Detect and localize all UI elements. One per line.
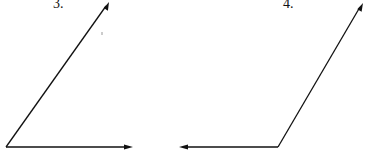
arrowhead-up-right-icon (104, 2, 109, 11)
figure-4-diagonal-ray (278, 7, 360, 147)
figure-3-angle (6, 2, 133, 150)
arrowhead-left-icon (179, 145, 188, 150)
figure-4-angle (179, 3, 363, 150)
angle-diagrams (0, 0, 372, 154)
arrowhead-right-icon (124, 145, 133, 150)
figure-3-diagonal-ray (6, 6, 106, 147)
